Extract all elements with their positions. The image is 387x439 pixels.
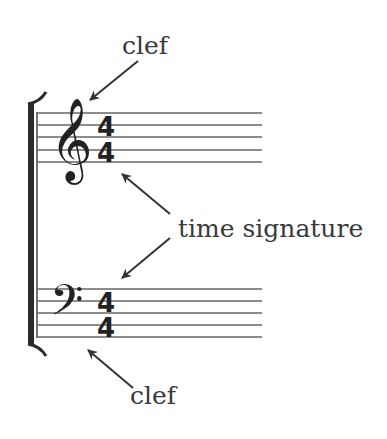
top-clef-arrow	[90, 61, 138, 100]
bottom-time-sig-denominator: 4	[97, 313, 115, 343]
system-bracket	[28, 92, 46, 356]
time-sig-arrow-up	[122, 174, 170, 214]
treble-clef-icon: 𝄞	[50, 97, 93, 185]
treble-staff: 𝄞 4 4	[37, 97, 262, 185]
bass-clef-icon: 𝄢	[50, 275, 83, 335]
bottom-clef-arrow	[88, 350, 133, 388]
time-sig-arrow-down	[122, 238, 170, 278]
bottom-clef-label: clef	[130, 381, 178, 410]
top-clef-label: clef	[122, 31, 170, 60]
bass-staff: 𝄢 4 4	[37, 275, 262, 343]
music-staff-diagram: 𝄞 4 4 𝄢 4 4 clef time signature clef	[0, 0, 387, 439]
top-time-sig-denominator: 4	[97, 138, 115, 168]
time-signature-label: time signature	[178, 214, 363, 243]
